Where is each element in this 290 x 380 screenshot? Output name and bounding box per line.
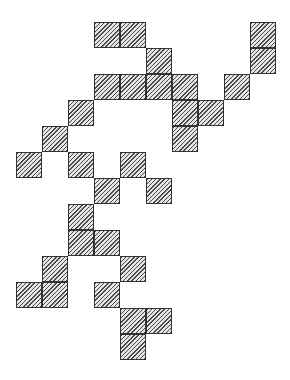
- hatched-square: [68, 152, 94, 178]
- hatched-square: [16, 282, 42, 308]
- hatched-square: [94, 22, 120, 48]
- hatched-square: [250, 22, 276, 48]
- hatched-square: [120, 152, 146, 178]
- hatched-square: [198, 100, 224, 126]
- hatched-square: [16, 152, 42, 178]
- hatched-square: [68, 204, 94, 230]
- hatched-square: [94, 282, 120, 308]
- hatched-square: [146, 74, 172, 100]
- hatched-square: [224, 74, 250, 100]
- hatched-square: [42, 282, 68, 308]
- hatched-square: [120, 256, 146, 282]
- hatched-square: [94, 178, 120, 204]
- hatched-square: [42, 256, 68, 282]
- hatched-square: [120, 308, 146, 334]
- hatched-square: [146, 178, 172, 204]
- hatched-square-grid: [0, 0, 290, 380]
- hatched-square: [120, 22, 146, 48]
- hatched-square: [94, 230, 120, 256]
- hatched-square: [172, 100, 198, 126]
- hatched-square: [250, 48, 276, 74]
- hatched-square: [120, 74, 146, 100]
- hatched-square: [172, 74, 198, 100]
- hatched-square: [120, 334, 146, 360]
- hatched-square: [146, 48, 172, 74]
- hatched-square: [172, 126, 198, 152]
- hatched-square: [146, 308, 172, 334]
- hatched-square: [68, 100, 94, 126]
- hatched-square: [94, 74, 120, 100]
- hatched-square: [42, 126, 68, 152]
- hatched-square: [68, 230, 94, 256]
